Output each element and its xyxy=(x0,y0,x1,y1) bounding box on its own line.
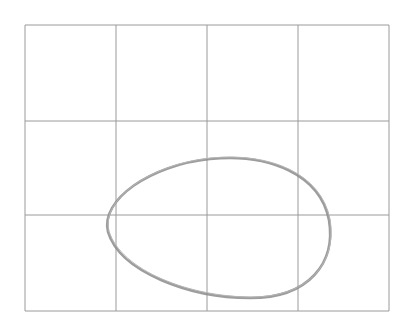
grid xyxy=(25,25,389,311)
egg-curve xyxy=(107,158,330,298)
sketch-canvas xyxy=(0,0,402,323)
